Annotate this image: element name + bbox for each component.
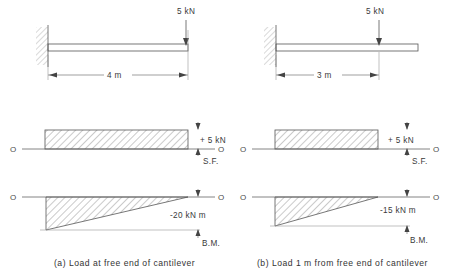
dimension-arrow-left <box>49 73 57 78</box>
panel-a-caption: (a) Load at free end of cantilever <box>54 258 195 268</box>
bm-origin-label-left: O <box>10 193 16 202</box>
beam <box>276 44 418 51</box>
bm-value-arrow-top-head <box>196 190 201 197</box>
panel-b: 5 kN 3 m O O + 5 kN S.F. <box>240 7 439 268</box>
sf-axis-label: S.F. <box>412 157 428 166</box>
sf-value-arrow-top-head <box>405 123 410 130</box>
panel-b-beam-assembly: 5 kN 3 m <box>264 7 418 81</box>
bm-negative-triangle <box>275 197 378 226</box>
load-arrow-head <box>376 38 382 46</box>
bm-axis-label: B.M. <box>202 239 220 248</box>
dimension-arrow-right <box>370 73 378 78</box>
sf-value-arrow-top-head <box>196 123 201 130</box>
load-label: 5 kN <box>366 7 384 16</box>
span-label: 3 m <box>317 71 332 80</box>
bm-axis-label: B.M. <box>410 236 428 245</box>
panel-a-shear-force-diagram: O O + 5 kN S.F. <box>10 122 226 166</box>
sf-positive-block <box>45 130 188 149</box>
fixed-support-hatch <box>36 27 48 65</box>
load-label: 5 kN <box>177 7 195 16</box>
bm-negative-triangle <box>46 197 188 230</box>
span-label: 4 m <box>107 71 122 80</box>
bm-value-label: -15 kN m <box>380 206 416 215</box>
sf-origin-label-left: O <box>240 145 246 154</box>
bm-value-arrow-top-head <box>405 190 410 197</box>
bm-value-label: -20 kN m <box>170 211 206 220</box>
dimension-arrow-left <box>277 73 285 78</box>
figure-canvas: 5 kN 4 m O O <box>0 0 458 275</box>
panel-b-caption: (b) Load 1 m from free end of cantilever <box>257 258 428 268</box>
dimension-arrow-right <box>179 73 187 78</box>
panel-b-bending-moment-diagram: O O -15 kN m B.M. <box>240 189 439 245</box>
sf-axis-label: S.F. <box>203 157 219 166</box>
panel-a-beam-assembly: 5 kN 4 m <box>36 7 195 81</box>
sf-origin-label-left: O <box>10 145 16 154</box>
sf-value-label: + 5 kN <box>200 136 226 145</box>
sf-value-label: + 5 kN <box>388 136 414 145</box>
sf-origin-label-right: O <box>218 145 224 154</box>
bm-origin-label-left: O <box>240 193 246 202</box>
panel-a: 5 kN 4 m O O <box>10 7 226 268</box>
sf-positive-block <box>275 130 378 149</box>
sf-origin-label-right: O <box>433 145 439 154</box>
cantilever-diagram-figure: 5 kN 4 m O O <box>0 0 458 275</box>
beam <box>48 44 188 51</box>
panel-b-shear-force-diagram: O O + 5 kN S.F. <box>240 122 439 166</box>
bm-origin-label-right: O <box>433 193 439 202</box>
panel-a-bending-moment-diagram: O O -20 kN m B.M. <box>10 189 224 248</box>
fixed-support-hatch <box>264 27 276 65</box>
bm-origin-label-right: O <box>218 193 224 202</box>
